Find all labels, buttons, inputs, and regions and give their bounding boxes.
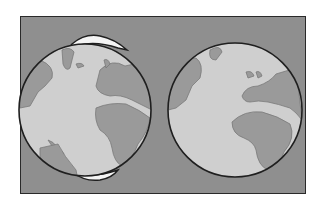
left-globe [18,35,152,190]
globes-illustration [0,0,326,211]
right-globe [168,43,302,185]
